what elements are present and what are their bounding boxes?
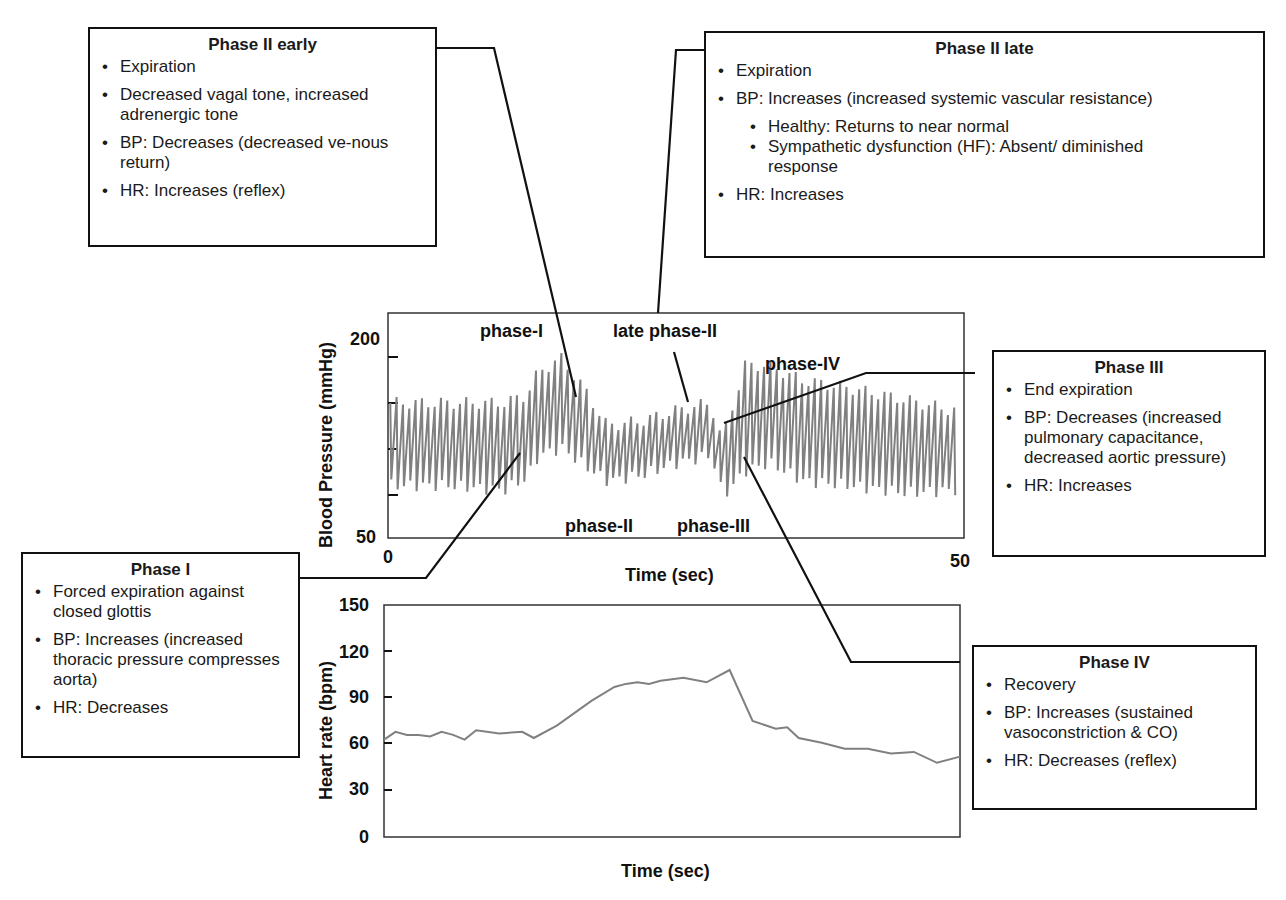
phase-2-late-list: Expiration BP: Increases (increased syst… — [716, 61, 1253, 205]
hr-x-label: Time (sec) — [621, 861, 710, 881]
phase-1-box: Phase I Forced expiration against closed… — [21, 552, 300, 758]
list-item: Forced expiration against closed glottis — [33, 582, 288, 622]
phase-3-title: Phase III — [1004, 358, 1254, 378]
list-item: Expiration — [100, 57, 425, 77]
phase-3-list: End expiration BP: Decreases (increased … — [1004, 380, 1254, 496]
bp-y-label: Blood Pressure (mmHg) — [316, 342, 336, 548]
list-item: HR: Increases — [1004, 476, 1254, 496]
hr-tick-30: 30 — [349, 779, 369, 799]
phase-1-list: Forced expiration against closed glottis… — [33, 582, 288, 718]
list-item: Expiration — [716, 61, 1253, 81]
phase-2-early-box: Phase II early Expiration Decreased vaga… — [88, 27, 437, 247]
phase-2-late-sublist: Healthy: Returns to near normal Sympathe… — [748, 117, 1253, 177]
bp-y-bottom: 50 — [356, 527, 376, 547]
phase-2-late-box: Phase II late Expiration BP: Increases (… — [704, 31, 1265, 258]
annotation-phase-3: phase-III — [677, 516, 750, 536]
hr-y-label: Heart rate (bpm) — [316, 661, 336, 800]
connector-late-phase-2-tick — [674, 352, 688, 402]
list-item: BP: Increases (increased thoracic pressu… — [33, 630, 288, 690]
list-item: HR: Decreases (reflex) — [984, 751, 1245, 771]
hr-tick-0: 0 — [359, 827, 369, 847]
bp-trace — [390, 353, 955, 497]
list-item: Recovery — [984, 675, 1245, 695]
annotation-phase-1: phase-I — [480, 321, 543, 341]
phase-2-early-title: Phase II early — [100, 35, 425, 55]
hr-tick-60: 60 — [349, 733, 369, 753]
list-item: HR: Decreases — [33, 698, 288, 718]
list-item: HR: Increases (reflex) — [100, 181, 425, 201]
hr-chart-frame — [384, 605, 960, 837]
sub-list-item: Healthy: Returns to near normal — [748, 117, 1253, 137]
phase-4-title: Phase IV — [984, 653, 1245, 673]
phase-4-list: Recovery BP: Increases (sustained vasoco… — [984, 675, 1245, 771]
annotation-phase-4: phase-IV — [765, 354, 840, 374]
annotation-late-phase-2: late phase-II — [613, 321, 717, 341]
connector-phase-4 — [744, 457, 960, 662]
bp-y-top: 200 — [350, 329, 380, 349]
hr-tick-120: 120 — [339, 642, 369, 662]
phase-2-late-title: Phase II late — [716, 39, 1253, 59]
list-item: End expiration — [1004, 380, 1254, 400]
phase-4-box: Phase IV Recovery BP: Increases (sustain… — [972, 645, 1257, 810]
sub-list-item: Sympathetic dysfunction (HF): Absent/ di… — [748, 137, 1253, 177]
bp-x-left: 0 — [383, 547, 393, 567]
list-item: BP: Increases (sustained vasoconstrictio… — [984, 703, 1245, 743]
hr-y-ticks — [384, 651, 392, 790]
connector-phase-2-early — [436, 48, 576, 397]
connector-phase-2-late — [658, 50, 706, 313]
bp-x-right: 50 — [950, 551, 970, 571]
hr-tick-150: 150 — [339, 595, 369, 615]
hr-trace — [384, 670, 960, 763]
bp-x-label: Time (sec) — [625, 565, 714, 585]
list-item: BP: Increases (increased systemic vascul… — [716, 89, 1253, 177]
annotation-phase-2: phase-II — [565, 516, 633, 536]
phase-1-title: Phase I — [33, 560, 288, 580]
list-item: HR: Increases — [716, 185, 1253, 205]
phase-3-box: Phase III End expiration BP: Decreases (… — [992, 350, 1266, 557]
list-item: BP: Decreases (increased pulmonary capac… — [1004, 408, 1254, 468]
list-item-text: BP: Increases (increased systemic vascul… — [736, 89, 1153, 108]
list-item: BP: Decreases (decreased ve-nous return) — [100, 133, 425, 173]
phase-2-early-list: Expiration Decreased vagal tone, increas… — [100, 57, 425, 201]
list-item: Decreased vagal tone, increased adrenerg… — [100, 85, 425, 125]
hr-tick-90: 90 — [349, 687, 369, 707]
